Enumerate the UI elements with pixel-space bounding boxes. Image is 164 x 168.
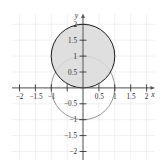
- y-tick-label-1-5: 1.5: [68, 37, 77, 45]
- x-tick-label-neg1: −1: [48, 93, 56, 101]
- x-tick-label-2: 2: [145, 93, 149, 101]
- y-tick-label-neg0-5: −0.5: [64, 100, 77, 108]
- x-tick-label-1-5: 1.5: [127, 93, 136, 101]
- x-tick-label-neg2: −2: [16, 93, 24, 101]
- y-tick-label-2: 2: [73, 21, 77, 29]
- y-tick-label-0-5: 0.5: [68, 69, 77, 77]
- x-tick-label-neg1-5: −1.5: [29, 93, 42, 101]
- y-tick-label-neg1-5: −1.5: [64, 132, 77, 140]
- coordinate-plane-chart: −2 −1.5 −1 0.5 1 1.5 2 2 1.5 1 0.5 −0.5 …: [0, 0, 164, 168]
- y-tick-label-neg1: −1: [69, 116, 77, 124]
- math-figure: −2 −1.5 −1 0.5 1 1.5 2 2 1.5 1 0.5 −0.5 …: [0, 0, 164, 168]
- x-tick-label-1: 1: [113, 93, 117, 101]
- y-tick-label-neg2: −2: [69, 148, 77, 156]
- x-axis-label: x: [150, 90, 155, 99]
- x-tick-label-0-5: 0.5: [95, 93, 104, 101]
- y-axis-label: y: [74, 11, 79, 20]
- y-tick-label-1: 1: [73, 53, 77, 61]
